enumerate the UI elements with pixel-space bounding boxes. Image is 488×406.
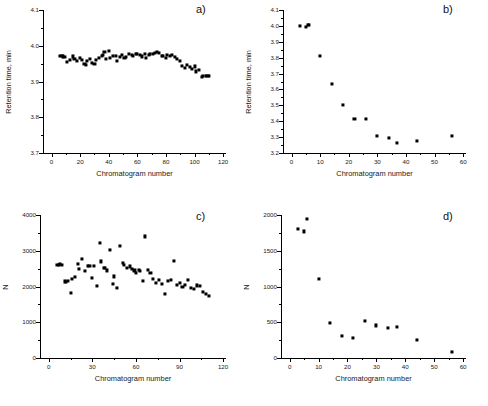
data-point: [395, 326, 398, 329]
x-tick: [405, 358, 406, 362]
data-point: [329, 321, 332, 324]
data-point: [386, 326, 389, 329]
y-tick-label: 1500: [249, 248, 277, 254]
y-tick: [277, 287, 281, 288]
y-tick-label: 2000: [249, 212, 277, 218]
x-tick-label: 30: [373, 364, 380, 370]
x-tick-label: 50: [431, 364, 438, 370]
x-tick-label: 10: [315, 364, 322, 370]
x-tick: [376, 358, 377, 362]
x-tick: [347, 358, 348, 362]
x-axis-title: Chromatogram number: [335, 375, 411, 382]
y-tick: [277, 322, 281, 323]
panel-d: 01020304050600500100015002000Chromatogra…: [0, 0, 488, 406]
y-tick-label: 500: [249, 319, 277, 325]
data-point: [363, 320, 366, 323]
y-axis-title: N: [243, 284, 250, 289]
y-minor-tick: [279, 269, 281, 270]
figure-four-panel-scatter: 0204060801001203.73.83.94.04.1Chromatogr…: [0, 0, 488, 406]
y-axis-line: [281, 215, 282, 358]
data-point: [297, 227, 300, 230]
x-minor-tick: [391, 358, 392, 360]
data-point: [305, 217, 308, 220]
y-tick: [277, 358, 281, 359]
x-tick: [290, 358, 291, 362]
x-tick: [463, 358, 464, 362]
y-tick-label: 0: [249, 355, 277, 361]
x-tick-label: 60: [460, 364, 467, 370]
data-point: [340, 334, 343, 337]
x-minor-tick: [333, 358, 334, 360]
x-tick-label: 20: [344, 364, 351, 370]
y-minor-tick: [279, 340, 281, 341]
x-minor-tick: [449, 358, 450, 360]
y-minor-tick: [279, 304, 281, 305]
x-tick: [319, 358, 320, 362]
data-point: [303, 230, 306, 233]
data-point: [450, 350, 453, 353]
y-tick-label: 1000: [249, 283, 277, 289]
x-tick-label: 0: [288, 364, 291, 370]
data-point: [317, 277, 320, 280]
y-tick: [277, 215, 281, 216]
panel-letter: d): [443, 211, 453, 222]
x-tick-label: 40: [402, 364, 409, 370]
x-axis-line: [281, 358, 466, 359]
data-point: [415, 338, 418, 341]
x-minor-tick: [420, 358, 421, 360]
data-point: [352, 336, 355, 339]
x-tick: [434, 358, 435, 362]
data-point: [375, 324, 378, 327]
y-minor-tick: [279, 233, 281, 234]
x-minor-tick: [304, 358, 305, 360]
x-minor-tick: [362, 358, 363, 360]
y-tick: [277, 251, 281, 252]
